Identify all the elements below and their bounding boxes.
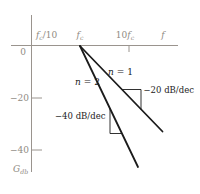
x-axis-symbol: f (160, 30, 166, 40)
bode-line-n2 (80, 46, 138, 167)
x-tick-label-10fc: 10fc (116, 30, 135, 41)
x-tick-label-fc: fc (76, 30, 84, 41)
label-slope-n2: −40 dB/dec (55, 111, 106, 121)
label-slope-n1: −20 dB/dec (144, 85, 195, 95)
label-n1: n= 1 (108, 67, 133, 77)
bode-plot-figure: fc/10 fc 10fc f 0 −20 −40 Gdb n= 1 n= 2 … (0, 0, 200, 194)
label-n2: n= 2 (75, 77, 100, 87)
y-tick-label-minus40: −40 (10, 145, 29, 155)
bode-plot-canvas: fc/10 fc 10fc f 0 −20 −40 Gdb n= 1 n= 2 … (0, 0, 200, 194)
y-axis-label-gdb: Gdb (13, 164, 28, 175)
y-tick-label-minus20: −20 (10, 93, 29, 103)
x-tick-label-fc10: fc/10 (35, 30, 58, 41)
y-tick-label-0: 0 (20, 47, 26, 57)
